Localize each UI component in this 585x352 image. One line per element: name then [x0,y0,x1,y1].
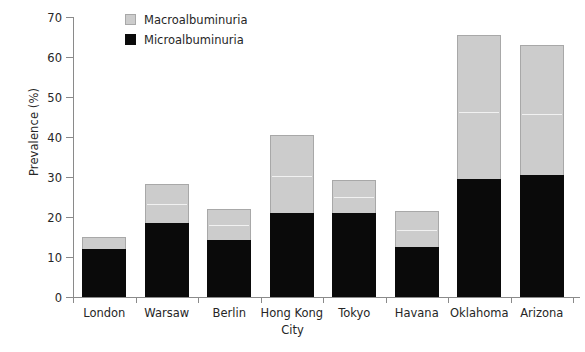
legend-item-microalbuminuria: Microalbuminuria [125,31,248,48]
x-tick-boundary-2 [198,297,199,303]
y-tick-0: 0 [66,297,73,298]
y-tick-50: 50 [66,97,73,98]
plot-area: 010203040506070 LondonWarsawBerlinHong K… [73,17,573,297]
y-tick-label-40: 40 [47,131,62,145]
y-tick-60: 60 [66,57,73,58]
x-tick-boundary-5 [386,297,387,303]
x-axis-title: City [0,323,585,337]
scan-artifact-line [209,225,249,226]
y-axis-title: Prevalence (%) [27,32,41,232]
scan-artifact-line [522,114,562,115]
bar-segment-macroalbuminuria[interactable] [520,45,564,175]
bar-london[interactable] [82,17,126,297]
bar-hong-kong[interactable] [270,17,314,297]
legend-label-macroalbuminuria: Macroalbuminuria [144,13,248,27]
bar-berlin[interactable] [207,17,251,297]
black-square-swatch-icon [125,34,136,45]
y-tick-label-0: 0 [55,291,62,305]
y-tick-label-30: 30 [47,171,62,185]
bar-tokyo[interactable] [332,17,376,297]
bar-segment-microalbuminuria[interactable] [395,247,439,297]
bar-segment-microalbuminuria[interactable] [270,213,314,297]
y-tick-label-50: 50 [47,91,62,105]
bar-segment-microalbuminuria[interactable] [207,240,251,297]
x-tick-label-london: London [83,306,125,320]
bar-segment-microalbuminuria[interactable] [520,175,564,297]
y-tick-30: 30 [66,177,73,178]
x-tick-boundary-7 [511,297,512,303]
y-tick-label-70: 70 [47,11,62,25]
bar-arizona[interactable] [520,17,564,297]
bar-segment-macroalbuminuria[interactable] [207,209,251,240]
y-axis-line [73,17,74,297]
bar-warsaw[interactable] [145,17,189,297]
legend-item-macroalbuminuria: Macroalbuminuria [125,11,248,28]
bar-segment-macroalbuminuria[interactable] [457,35,501,179]
y-tick-40: 40 [66,137,73,138]
bar-segment-microalbuminuria[interactable] [457,179,501,297]
scan-artifact-line [459,112,499,113]
bar-segment-macroalbuminuria[interactable] [332,180,376,213]
y-tick-label-60: 60 [47,51,62,65]
x-tick-label-arizona: Arizona [520,306,563,320]
x-tick-boundary-8 [573,297,574,303]
bar-segment-macroalbuminuria[interactable] [270,135,314,213]
y-tick-10: 10 [66,257,73,258]
gray-square-swatch-icon [125,14,136,25]
x-tick-boundary-1 [136,297,137,303]
x-tick-label-oklahoma: Oklahoma [450,306,509,320]
scan-artifact-line [272,176,312,177]
scan-artifact-line [147,204,187,205]
x-tick-boundary-0 [73,297,74,303]
scan-artifact-line [334,197,374,198]
y-tick-20: 20 [66,217,73,218]
bar-segment-macroalbuminuria[interactable] [395,211,439,247]
x-tick-label-havana: Havana [395,306,439,320]
x-tick-label-tokyo: Tokyo [338,306,370,320]
bar-segment-microalbuminuria[interactable] [145,223,189,297]
legend-label-microalbuminuria: Microalbuminuria [144,33,244,47]
bar-segment-microalbuminuria[interactable] [332,213,376,297]
chart-figure: Prevalence (%) City 010203040506070 Lond… [0,0,585,352]
x-tick-boundary-6 [448,297,449,303]
x-tick-boundary-3 [261,297,262,303]
scan-artifact-line [397,230,437,231]
bar-havana[interactable] [395,17,439,297]
bar-segment-macroalbuminuria[interactable] [82,237,126,249]
x-tick-label-hong-kong: Hong Kong [260,306,323,320]
chart-legend: Macroalbuminuria Microalbuminuria [125,11,248,51]
y-tick-70: 70 [66,17,73,18]
y-tick-label-10: 10 [47,251,62,265]
bar-segment-microalbuminuria[interactable] [82,249,126,297]
x-tick-label-berlin: Berlin [213,306,246,320]
y-tick-label-20: 20 [47,211,62,225]
bar-oklahoma[interactable] [457,17,501,297]
x-tick-label-warsaw: Warsaw [144,306,189,320]
x-tick-boundary-4 [323,297,324,303]
bar-segment-macroalbuminuria[interactable] [145,184,189,223]
